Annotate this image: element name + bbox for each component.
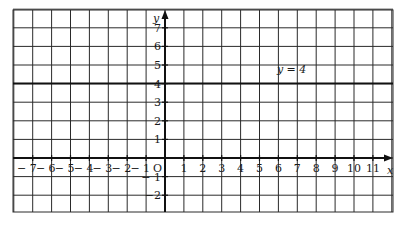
x-tick-label: 9: [332, 162, 339, 175]
x-tick-label: − 7: [17, 162, 37, 175]
x-tick-label: − 6: [36, 162, 56, 175]
x-tick-label: − 5: [55, 162, 75, 175]
y-axis-label: y: [152, 12, 160, 25]
y-tick-label: 6: [154, 40, 161, 53]
x-tick-label: 6: [275, 162, 282, 175]
origin-label: O: [153, 162, 162, 175]
x-tick-label: 4: [237, 162, 244, 175]
grid-lines: [13, 9, 393, 212]
y-tick-label: 2: [154, 115, 161, 128]
x-tick-label: 5: [256, 162, 263, 175]
x-tick-label: 8: [313, 162, 320, 175]
y-tick-label: 4: [154, 78, 161, 91]
x-tick-label: − 3: [93, 162, 113, 175]
y-axis-arrow-icon: [162, 10, 169, 19]
x-tick-label: 11: [366, 162, 380, 175]
x-tick-label: 2: [199, 162, 206, 175]
tick-labels: − 7− 6− 5− 4− 3− 2− 11234567891011765432…: [17, 12, 394, 202]
x-tick-label: − 4: [74, 162, 94, 175]
y-tick-label: 1: [154, 133, 161, 146]
x-tick-label: 3: [218, 162, 225, 175]
plot-area: − 7− 6− 5− 4− 3− 2− 11234567891011765432…: [0, 0, 401, 226]
x-tick-label: 10: [347, 162, 361, 175]
line-equation-label: y = 4: [276, 63, 306, 76]
x-tick-label: − 2: [111, 162, 131, 175]
x-tick-label: 1: [180, 162, 187, 175]
coordinate-grid-figure: − 7− 6− 5− 4− 3− 2− 11234567891011765432…: [0, 0, 401, 226]
y-tick-label: 3: [154, 96, 161, 109]
x-tick-label: 7: [294, 162, 301, 175]
y-tick-label: −2: [145, 189, 161, 202]
y-tick-label: 5: [154, 59, 161, 72]
x-axis-label: x: [387, 164, 394, 177]
